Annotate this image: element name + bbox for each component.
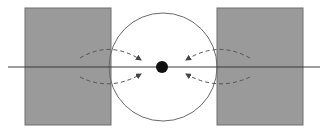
diagram-canvas	[0, 0, 326, 131]
center-dot	[156, 61, 168, 73]
diagram-svg	[0, 0, 326, 131]
